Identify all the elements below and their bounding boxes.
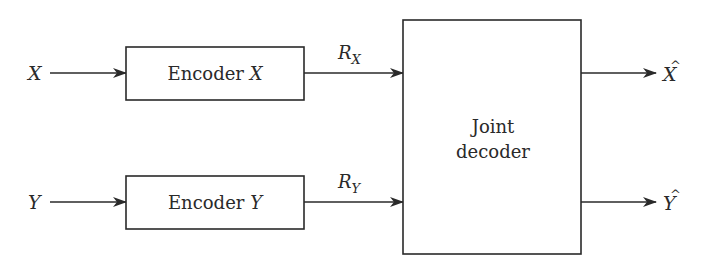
- rate-x-label: RX: [337, 42, 362, 67]
- joint-decoder-box: [403, 20, 581, 254]
- output-yhat-hat: ^: [670, 187, 681, 202]
- encoder-x-label: Encoder X: [168, 63, 264, 84]
- decoder-label-line1: Joint: [470, 116, 515, 137]
- rate-y-label: RY: [337, 171, 362, 196]
- encoder-y-label: Encoder Y: [168, 192, 264, 213]
- input-x-label: X: [26, 62, 43, 84]
- input-y-label: Y: [28, 191, 43, 213]
- distributed-source-coding-diagram: X Encoder X RX Y Encoder Y RY Joint deco…: [0, 0, 709, 267]
- output-xhat-hat: ^: [670, 58, 681, 73]
- decoder-label-line2: decoder: [456, 141, 530, 162]
